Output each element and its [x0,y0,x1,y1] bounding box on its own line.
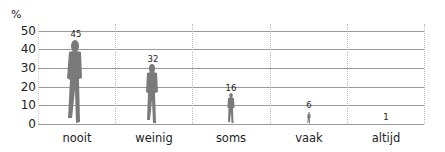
separator-3 [270,24,271,124]
data-label-soms: 16 [211,83,251,93]
data-label-vaak: 6 [289,100,329,110]
separator-2 [192,24,193,124]
separator-5 [424,24,425,124]
x-label-altijd: altijd [347,131,425,145]
y-axis-line [38,24,39,124]
x-label-soms: soms [192,131,270,145]
person-figure-icon [306,112,312,124]
y-axis-unit: % [11,8,21,21]
x-label-weinig: weinig [115,131,193,145]
data-label-weinig: 32 [133,54,173,64]
separator-4 [347,24,348,124]
x-label-nooit: nooit [38,131,116,145]
person-figure-icon [226,93,236,124]
y-tick-40: 40 [14,43,36,55]
y-tick-0: 0 [14,118,36,130]
person-figure-icon [144,64,160,124]
y-tick-20: 20 [14,81,36,93]
person-figure-icon [64,40,86,124]
gridline-0 [38,124,424,125]
separator-1 [115,24,116,124]
gridline-40 [38,49,424,50]
y-tick-10: 10 [14,99,36,111]
data-label-nooit: 45 [56,29,96,39]
gridline-30 [38,68,424,69]
x-label-vaak: vaak [270,131,348,145]
y-tick-50: 50 [14,25,36,37]
y-tick-30: 30 [14,62,36,74]
data-label-altijd: 1 [366,112,406,122]
